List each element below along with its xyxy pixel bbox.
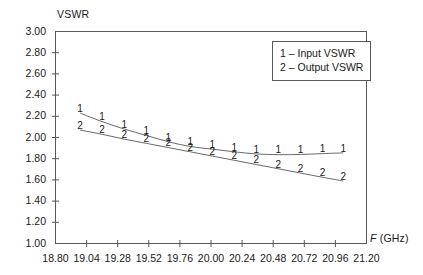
y-tick-label: 2.60: [12, 67, 46, 79]
y-tick-label: 2.20: [12, 109, 46, 121]
data-point-marker: 2: [254, 154, 260, 165]
x-tick-label: 20.24: [229, 252, 255, 264]
data-point-marker: 2: [143, 133, 149, 144]
legend-entry-input-vswr: 1 – Input VSWR: [280, 46, 363, 60]
x-tick-label: 19.52: [136, 252, 162, 264]
data-point-marker: 1: [276, 144, 282, 155]
y-tick-label: 2.80: [12, 46, 46, 58]
data-point-marker: 2: [121, 129, 127, 140]
x-tick-label: 19.28: [105, 252, 131, 264]
x-tick-label: 20.96: [322, 252, 348, 264]
y-tick-label: 1.40: [12, 194, 46, 206]
y-tick-label: 1.00: [12, 237, 46, 249]
x-tick-label: 19.04: [73, 252, 99, 264]
x-tick-label: 20.00: [198, 252, 224, 264]
data-point-marker: 1: [320, 143, 326, 154]
data-point-marker: 1: [340, 143, 346, 154]
data-point-marker: 2: [340, 171, 346, 182]
data-point-marker: 2: [298, 163, 304, 174]
x-tick-label: 20.48: [260, 252, 286, 264]
y-tick-label: 2.40: [12, 88, 46, 100]
data-point-marker: 1: [99, 111, 105, 122]
x-tick-label: 20.72: [291, 252, 317, 264]
vswr-chart: VSWR F (GHz) 11111111111112222222222222 …: [0, 0, 423, 275]
data-point-marker: 2: [77, 120, 83, 131]
y-tick-label: 1.20: [12, 215, 46, 227]
x-tick-label: 18.80: [42, 252, 68, 264]
data-point-marker: 1: [298, 144, 304, 155]
data-point-marker: 2: [232, 150, 238, 161]
x-tick-label: 19.76: [167, 252, 193, 264]
data-point-marker: 2: [99, 124, 105, 135]
y-tick-label: 1.80: [12, 152, 46, 164]
data-point-marker: 2: [320, 167, 326, 178]
data-point-marker: 2: [165, 137, 171, 148]
data-point-marker: 2: [210, 146, 216, 157]
y-tick-label: 2.00: [12, 131, 46, 143]
data-point-marker: 1: [77, 103, 83, 114]
legend-entry-output-vswr: 2 – Output VSWR: [280, 60, 363, 74]
y-tick-label: 3.00: [12, 25, 46, 37]
data-point-marker: 1: [254, 144, 260, 155]
data-point-marker: 2: [276, 159, 282, 170]
chart-legend: 1 – Input VSWR 2 – Output VSWR: [272, 41, 371, 81]
data-point-marker: 2: [187, 142, 193, 153]
y-tick-label: 1.60: [12, 173, 46, 185]
x-tick-label: 21.20: [353, 252, 379, 264]
